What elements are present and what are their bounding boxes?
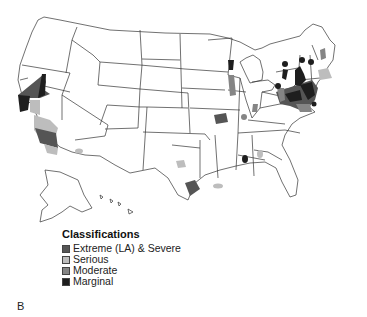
- legend-title: Classifications: [62, 228, 181, 240]
- nonattainment-areas: [18, 48, 332, 196]
- swatch-extreme: [62, 245, 70, 253]
- panel-label: B: [17, 300, 24, 312]
- legend-item-marginal: Marginal: [62, 276, 181, 287]
- us-map: [0, 0, 367, 225]
- legend-label: Marginal: [73, 276, 113, 287]
- swatch-moderate: [62, 267, 70, 275]
- swatch-serious: [62, 256, 70, 264]
- state-outlines: [18, 17, 335, 222]
- swatch-marginal: [62, 278, 70, 286]
- legend: Classifications Extreme (LA) & Severe Se…: [62, 228, 181, 287]
